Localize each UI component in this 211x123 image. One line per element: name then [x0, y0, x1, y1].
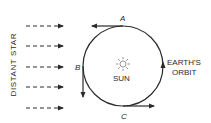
starlight-rays — [26, 26, 63, 108]
sun-icon — [116, 57, 130, 71]
point-a-label: A — [120, 14, 125, 23]
earth-orbit — [83, 26, 163, 106]
sun-label: SUN — [113, 74, 130, 83]
point-b-label: B — [75, 63, 80, 72]
orbit-direction-arrow-icon — [161, 61, 166, 68]
distant-star-label: DISTANT STAR — [9, 37, 18, 97]
earth-orbit-label-line2: ORBIT — [172, 68, 196, 77]
point-c-label: C — [121, 112, 127, 121]
earth-orbit-label-line1: EARTH'S — [167, 58, 201, 67]
